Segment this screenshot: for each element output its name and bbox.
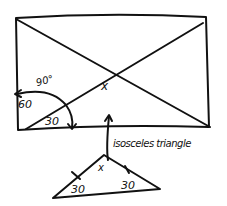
label-60: 60 bbox=[18, 99, 32, 110]
arrow-shaft bbox=[107, 116, 109, 160]
diagram-canvas bbox=[0, 0, 227, 206]
isosceles-annotation: isosceles triangle bbox=[113, 139, 191, 149]
triangle-apex-x: x bbox=[98, 163, 104, 173]
label-center-x: x bbox=[101, 80, 108, 92]
triangle-base-right-30: 30 bbox=[121, 180, 135, 191]
triangle-base-left-30: 30 bbox=[71, 184, 85, 195]
label-30: 30 bbox=[45, 116, 59, 127]
isosceles-triangle bbox=[53, 155, 160, 198]
